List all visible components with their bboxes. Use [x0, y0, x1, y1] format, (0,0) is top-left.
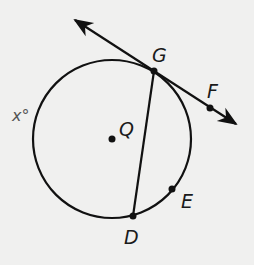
label-e: E — [181, 190, 193, 212]
label-q: Q — [119, 118, 134, 140]
point-d — [130, 213, 137, 220]
geometry-diagram: G F Q E D x° — [0, 0, 254, 265]
label-f: F — [207, 80, 219, 102]
diagram-canvas: G F Q E D x° — [0, 0, 254, 265]
chord-gd — [133, 71, 154, 216]
point-f — [207, 105, 214, 112]
point-e — [169, 186, 176, 193]
point-q — [109, 136, 116, 143]
label-d: D — [124, 226, 139, 248]
point-g — [151, 68, 158, 75]
label-g: G — [152, 44, 167, 66]
arc-measure-label: x° — [11, 106, 29, 125]
